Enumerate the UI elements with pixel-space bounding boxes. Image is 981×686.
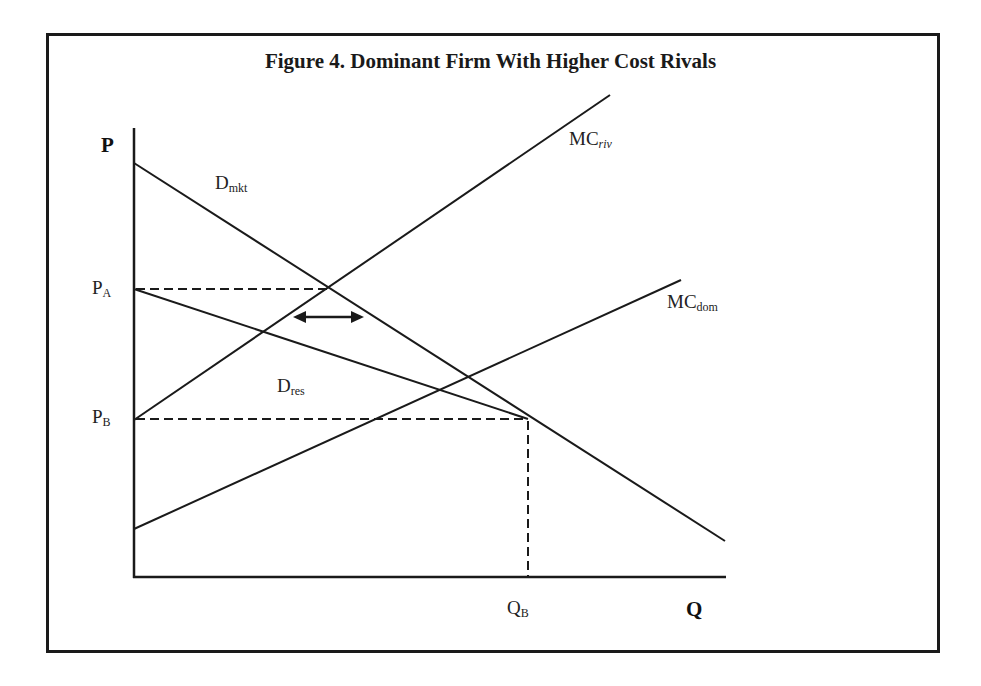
pa-label-sub: A <box>103 286 112 300</box>
mcriv-label-sub: riv <box>599 137 612 151</box>
mcdom-label: MCdom <box>667 291 718 315</box>
qb-label-main: Q <box>507 597 521 618</box>
qb-label-sub: B <box>521 606 529 620</box>
dres-label-main: D <box>277 375 291 396</box>
y-axis-label: P <box>101 133 114 158</box>
dmkt-label-sub: mkt <box>229 181 248 195</box>
chart-plot-area <box>0 0 981 686</box>
mcriv-curve <box>134 95 610 420</box>
double-arrow-icon <box>293 311 364 323</box>
pb-label-sub: B <box>103 415 111 429</box>
mcriv-label-main: MC <box>569 128 599 149</box>
dmkt-label-main: D <box>215 172 229 193</box>
pa-label: PA <box>92 277 111 301</box>
mcdom-label-sub: dom <box>697 300 718 314</box>
qb-label: QB <box>507 597 529 621</box>
mcriv-label: MCriv <box>569 128 612 152</box>
dmkt-label: Dmkt <box>215 172 247 196</box>
dmkt-curve <box>134 163 725 541</box>
dres-curve <box>134 289 528 419</box>
pb-label: PB <box>92 406 111 430</box>
pb-label-main: P <box>92 406 103 427</box>
pa-label-main: P <box>92 277 103 298</box>
dres-label: Dres <box>277 375 305 399</box>
dres-label-sub: res <box>291 384 305 398</box>
mcdom-curve <box>134 280 681 529</box>
x-axis-label: Q <box>686 597 702 622</box>
mcdom-label-main: MC <box>667 291 697 312</box>
